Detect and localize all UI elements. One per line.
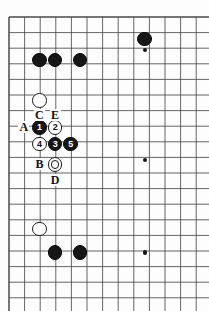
stone-b-bot-2[interactable] bbox=[73, 245, 88, 260]
point-label-b: B bbox=[34, 158, 45, 170]
go-diagram-figure: 12435CEABD bbox=[0, 0, 209, 311]
stone-b-bot-1[interactable] bbox=[48, 245, 63, 260]
hoshi-center-right-star-point bbox=[143, 158, 147, 162]
hoshi-upper-right-star-point bbox=[143, 48, 147, 52]
move-number-1: 1 bbox=[37, 123, 42, 132]
move-number-2: 2 bbox=[53, 123, 58, 132]
circle-marker-icon bbox=[51, 160, 59, 168]
go-board-marks-layer: 12435CEABD bbox=[0, 0, 209, 311]
move-number-4: 4 bbox=[37, 140, 42, 149]
stone-move-3[interactable]: 3 bbox=[48, 137, 63, 152]
stone-move-1[interactable]: 1 bbox=[32, 120, 47, 135]
point-label-d: D bbox=[50, 174, 61, 186]
stone-b-top-2[interactable] bbox=[48, 53, 63, 68]
point-label-e: E bbox=[50, 109, 61, 121]
stone-w-upper[interactable] bbox=[32, 93, 47, 108]
hoshi-lower-right-star-point bbox=[143, 250, 147, 254]
stone-w-lower[interactable] bbox=[32, 222, 47, 237]
stone-move-4[interactable]: 4 bbox=[32, 137, 47, 152]
move-number-3: 3 bbox=[53, 140, 58, 149]
stone-move-2[interactable]: 2 bbox=[48, 120, 63, 135]
point-label-c: C bbox=[34, 109, 45, 121]
stone-b-top-3[interactable] bbox=[73, 53, 88, 68]
stone-b-top-4[interactable] bbox=[137, 32, 152, 47]
stone-b-top-1[interactable] bbox=[32, 53, 47, 68]
move-number-5: 5 bbox=[68, 140, 73, 149]
stone-move-5[interactable]: 5 bbox=[63, 137, 78, 152]
point-label-a: A bbox=[18, 121, 29, 133]
